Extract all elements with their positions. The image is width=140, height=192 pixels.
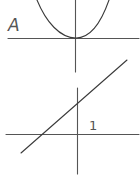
parabola-curve	[37, 0, 109, 38]
parabola-panel: A	[7, 0, 139, 72]
panel-label-a: A	[7, 15, 20, 35]
tick-label-one: 1	[89, 118, 97, 133]
sketch-canvas: A 1	[0, 0, 140, 192]
linear-function-line	[21, 60, 127, 153]
line-panel: 1	[6, 60, 139, 174]
